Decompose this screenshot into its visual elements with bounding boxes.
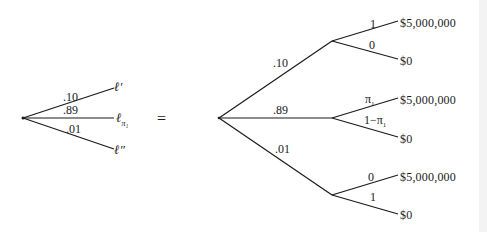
left-root-node: [22, 117, 25, 120]
outcome-prob-1b: 0: [369, 39, 375, 51]
outcome-prob-2b: 1−π1: [364, 114, 386, 131]
payoff-3b: $0: [400, 209, 412, 221]
payoff-1b: $0: [400, 55, 412, 67]
equals-sign: =: [157, 111, 166, 127]
right-prob-3: .01: [275, 143, 290, 155]
lottery-l-prime: ℓ′: [114, 80, 122, 93]
left-prob-2: .89: [63, 104, 78, 116]
right-root-node: [218, 117, 221, 120]
payoff-2a: $5,000,000: [400, 94, 456, 106]
right-prob-1: .10: [273, 57, 288, 69]
lottery-l-double-prime: ℓ″: [114, 143, 125, 156]
right-prob-2: .89: [273, 104, 288, 116]
lottery-l-pi1: ℓπ₁: [116, 111, 128, 130]
left-prob-3: .01: [66, 123, 81, 135]
outcome-prob-3a: 0: [368, 171, 374, 183]
outcome-prob-3b: 1: [370, 191, 376, 203]
payoff-1a: $5,000,000: [400, 17, 456, 29]
left-prob-1: .10: [63, 91, 78, 103]
right-branch-3: [219, 118, 332, 195]
payoff-3a: $5,000,000: [400, 171, 456, 183]
outcome-prob-1a: 1: [370, 18, 376, 30]
outcome-prob-2a: π1: [365, 93, 375, 110]
payoff-2b: $0: [400, 133, 412, 145]
